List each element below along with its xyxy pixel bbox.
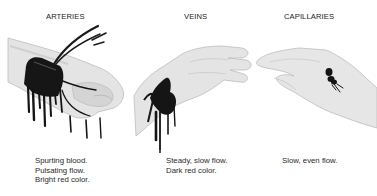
panel-capillaries: CAPILLARIES Slow, even flow. — [250, 0, 377, 196]
caption-line: Spurting blood. — [35, 156, 90, 166]
arterial-bleeding-hand-illustration — [0, 0, 130, 150]
panel-veins: VEINS Steady, slow flow. Dark red color. — [130, 0, 255, 196]
capillaries-caption: Slow, even flow. — [282, 156, 337, 166]
caption-line: Pulsating flow. — [35, 166, 90, 176]
caption-line: Slow, even flow. — [282, 156, 337, 166]
capillary-bleeding-hand-illustration — [250, 0, 377, 150]
caption-line: Steady, slow flow. — [166, 156, 227, 166]
caption-line: Dark red color. — [166, 166, 227, 176]
panel-arteries: ARTERIES — [0, 0, 130, 196]
veins-caption: Steady, slow flow. Dark red color. — [166, 156, 227, 175]
caption-line: Bright red color. — [35, 175, 90, 185]
arteries-caption: Spurting blood. Pulsating flow. Bright r… — [35, 156, 90, 185]
venous-bleeding-hand-illustration — [130, 0, 255, 160]
